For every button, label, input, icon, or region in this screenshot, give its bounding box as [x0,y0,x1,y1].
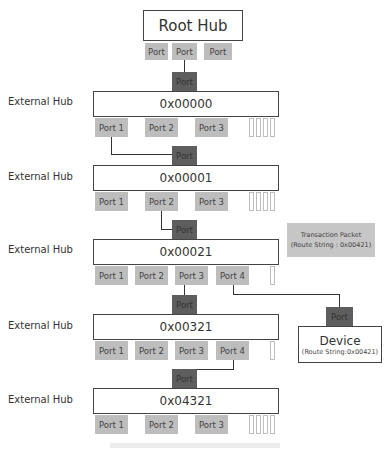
hub2-label: External Hub [8,244,73,255]
hub2-box: 0x00021 [93,239,279,265]
hub4-label: External Hub [8,394,73,405]
hub4-slot [270,415,275,434]
hub0-slot [256,118,261,137]
hub1-port-3: Port 3 [195,192,228,211]
root-port-1: Port [145,43,168,60]
hub3-port-4: Port 4 [216,341,249,360]
hub3-label: External Hub [8,320,73,331]
connector-line [233,294,340,295]
hub1-port-2: Port 2 [145,192,178,211]
hub4-box: 0x04321 [93,388,279,414]
hub4-upstream-port: Port [172,369,197,388]
root-hub: Root Hub [143,10,243,41]
hub2-port-4: Port 4 [216,266,249,285]
hub4-slot [256,415,261,434]
hub1-port-1: Port 1 [95,192,128,211]
transaction-packet-title: Transaction Packet [301,230,362,240]
hub4-port-3: Port 3 [195,415,228,434]
root-port-2: Port [172,43,197,60]
connector-line [161,211,162,229]
hub0-port-2: Port 2 [145,118,178,137]
hub0-slot [249,118,254,137]
hub3-box: 0x00321 [93,314,279,340]
hub1-slot [263,192,268,211]
hub0-upstream-port: Port [172,72,197,91]
connector-line [233,285,234,294]
device-box: Device (Route String:0x00421) [298,326,382,363]
connector-line [233,360,234,369]
connector-line [184,285,185,295]
hub3-port-1: Port 1 [95,341,128,360]
hub1-slot [249,192,254,211]
transaction-packet: Transaction Packet (Route String : 0x004… [287,223,375,257]
hub0-port-3: Port 3 [195,118,228,137]
hub4-slot [263,415,268,434]
hub3-port-2: Port 2 [135,341,168,360]
figure-caption-faded [110,443,280,448]
hub4-slot [249,415,254,434]
hub2-upstream-port: Port [172,220,197,239]
hub1-slot [270,192,275,211]
hub1-label: External Hub [8,171,73,182]
hub0-box: 0x00000 [93,91,279,117]
hub0-slot [263,118,268,137]
hub2-port-2: Port 2 [135,266,168,285]
connector-line [184,60,185,72]
connector-line [111,154,173,155]
hub1-upstream-port: Port [172,146,197,165]
hub1-slot [256,192,261,211]
hub0-label: External Hub [8,96,73,107]
hub2-slot [270,266,275,285]
hub3-slot [270,341,275,360]
root-port-3: Port [204,43,232,60]
hub2-port-3: Port 3 [175,266,208,285]
connector-line [339,294,340,307]
device-port: Port [326,307,353,326]
hub2-port-1: Port 1 [95,266,128,285]
device-title: Device [319,334,360,348]
hub4-port-2: Port 2 [145,415,178,434]
hub0-slot [270,118,275,137]
hub4-port-1: Port 1 [95,415,128,434]
transaction-packet-route: (Route String : 0x00421) [291,240,371,250]
device-route: (Route String:0x00421) [302,348,378,356]
hub0-port-1: Port 1 [95,118,128,137]
connector-line [111,137,112,154]
hub3-port-3: Port 3 [175,341,208,360]
connector-line [197,369,234,370]
hub3-upstream-port: Port [172,295,197,314]
hub1-box: 0x00001 [93,165,279,191]
